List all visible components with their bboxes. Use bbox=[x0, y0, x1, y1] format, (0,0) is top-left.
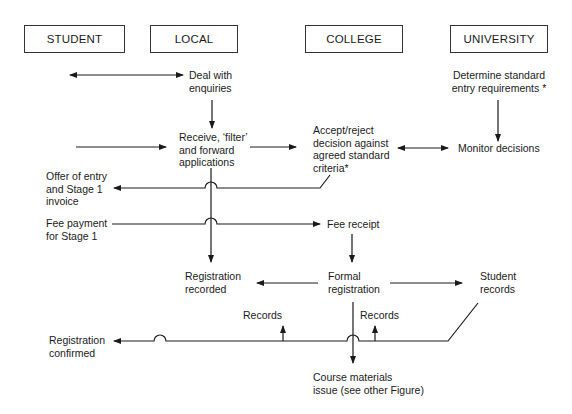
node-registration-confirmed: Registration confirmed bbox=[49, 334, 105, 359]
node-accept-reject: Accept/reject decision against agreed st… bbox=[313, 124, 389, 174]
node-monitor-decisions: Monitor decisions bbox=[458, 142, 540, 155]
node-registration-recorded: Registration recorded bbox=[185, 270, 241, 295]
confirmation-arrow bbox=[114, 303, 478, 341]
node-receive-filter-forward: Receive, ‘filter’ and forward applicatio… bbox=[179, 131, 248, 169]
node-formal-registration: Formal registration bbox=[328, 270, 380, 295]
node-records-1: Records bbox=[243, 309, 282, 322]
node-fee-receipt: Fee receipt bbox=[327, 218, 380, 231]
node-course-materials: Course materials issue (see other Figure… bbox=[313, 371, 424, 396]
node-student-records: Student records bbox=[480, 270, 516, 295]
node-determine-standard: Determine standard entry requirements * bbox=[449, 69, 549, 94]
node-offer-of-entry: Offer of entry and Stage 1 invoice bbox=[46, 170, 107, 208]
node-deal-with-enquiries: Deal with enquiries bbox=[189, 69, 232, 94]
node-records-2: Records bbox=[360, 309, 399, 322]
fee-payment-arrow bbox=[112, 218, 320, 224]
node-fee-payment: Fee payment for Stage 1 bbox=[46, 217, 107, 242]
offer-arrow bbox=[114, 175, 330, 188]
